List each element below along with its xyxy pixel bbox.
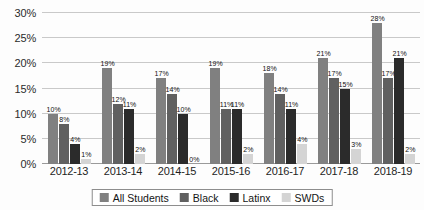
x-axis-tick-label: 2017-18 bbox=[312, 165, 366, 183]
bar[interactable] bbox=[297, 144, 307, 164]
bar[interactable] bbox=[329, 78, 339, 164]
y-axis-tick-label: 5% bbox=[21, 133, 37, 145]
bar[interactable] bbox=[243, 154, 253, 164]
bar[interactable] bbox=[264, 73, 274, 164]
bar[interactable] bbox=[102, 68, 112, 164]
bar-chart: 0%5%10%15%20%25%30% 10%8%4%1%19%12%11%2%… bbox=[0, 0, 424, 210]
y-axis-tick-label: 10% bbox=[15, 108, 36, 120]
bar-column[interactable]: 0% bbox=[189, 8, 199, 164]
bar-group: 19%11%11%2% bbox=[204, 8, 258, 164]
bar-value-label: 0% bbox=[189, 156, 199, 163]
bar[interactable] bbox=[340, 89, 350, 164]
legend-item[interactable]: Latinx bbox=[229, 192, 270, 204]
bar-value-label: 4% bbox=[70, 136, 80, 143]
bar-value-label: 1% bbox=[81, 151, 91, 158]
bar[interactable] bbox=[286, 109, 296, 164]
bar-column[interactable]: 2% bbox=[243, 8, 253, 164]
bar-column[interactable]: 2% bbox=[135, 8, 145, 164]
bar-column[interactable]: 4% bbox=[70, 8, 80, 164]
legend-swatch-icon bbox=[282, 193, 291, 202]
bar-column[interactable]: 2% bbox=[405, 8, 415, 164]
chart-legend: All StudentsBlackLatinxSWDs bbox=[92, 189, 333, 206]
bar[interactable] bbox=[221, 109, 231, 164]
bar[interactable] bbox=[81, 159, 91, 164]
bar[interactable] bbox=[48, 114, 58, 164]
y-axis-tick-label: 30% bbox=[15, 7, 36, 19]
bar-column[interactable]: 28% bbox=[372, 8, 382, 164]
bar[interactable] bbox=[167, 94, 177, 164]
bar-value-label: 4% bbox=[297, 136, 307, 143]
bar-group: 18%14%11%4% bbox=[258, 8, 312, 164]
x-axis-tick-label: 2014-15 bbox=[150, 165, 204, 183]
bar[interactable] bbox=[124, 109, 134, 164]
bar-column[interactable]: 17% bbox=[329, 8, 339, 164]
legend-item[interactable]: SWDs bbox=[282, 192, 325, 204]
bar-value-label: 2% bbox=[243, 146, 253, 153]
bar-group: 28%17%21%2% bbox=[366, 8, 420, 164]
bar-column[interactable]: 11% bbox=[232, 8, 242, 164]
y-axis: 0%5%10%15%20%25%30% bbox=[0, 8, 42, 164]
bar[interactable] bbox=[318, 58, 328, 164]
bar[interactable] bbox=[351, 149, 361, 164]
bar-column[interactable]: 14% bbox=[275, 8, 285, 164]
bar-group: 19%12%11%2% bbox=[96, 8, 150, 164]
bar[interactable] bbox=[275, 94, 285, 164]
x-axis-tick-label: 2018-19 bbox=[366, 165, 420, 183]
plot-area: 10%8%4%1%19%12%11%2%17%14%10%0%19%11%11%… bbox=[42, 8, 420, 164]
bar-column[interactable]: 1% bbox=[81, 8, 91, 164]
bar-column[interactable]: 10% bbox=[48, 8, 58, 164]
x-axis-tick-label: 2015-16 bbox=[204, 165, 258, 183]
legend-item[interactable]: All Students bbox=[100, 192, 169, 204]
bar-column[interactable]: 21% bbox=[394, 8, 404, 164]
bar-column[interactable]: 15% bbox=[340, 8, 350, 164]
y-axis-tick-label: 0% bbox=[21, 158, 37, 170]
bar[interactable] bbox=[135, 154, 145, 164]
bar-column[interactable]: 17% bbox=[383, 8, 393, 164]
bar-value-label: 2% bbox=[405, 146, 415, 153]
bar-groups: 10%8%4%1%19%12%11%2%17%14%10%0%19%11%11%… bbox=[42, 8, 420, 164]
bar[interactable] bbox=[156, 78, 166, 164]
bar-group: 17%14%10%0% bbox=[150, 8, 204, 164]
bar-column[interactable]: 14% bbox=[167, 8, 177, 164]
legend-item[interactable]: Black bbox=[180, 192, 219, 204]
bar[interactable] bbox=[59, 124, 69, 164]
bar-value-label: 8% bbox=[59, 116, 69, 123]
bar-column[interactable]: 10% bbox=[178, 8, 188, 164]
bar-column[interactable]: 3% bbox=[351, 8, 361, 164]
legend-label: SWDs bbox=[295, 192, 325, 204]
y-axis-tick-label: 15% bbox=[15, 83, 36, 95]
bar-column[interactable]: 11% bbox=[124, 8, 134, 164]
bar-column[interactable]: 18% bbox=[264, 8, 274, 164]
bar-column[interactable]: 17% bbox=[156, 8, 166, 164]
bar[interactable] bbox=[178, 114, 188, 164]
legend-label: All Students bbox=[113, 192, 169, 204]
x-axis-tick-label: 2012-13 bbox=[42, 165, 96, 183]
bar[interactable] bbox=[394, 58, 404, 164]
bar-value-label: 3% bbox=[351, 141, 361, 148]
bar[interactable] bbox=[113, 104, 123, 164]
bar-column[interactable]: 11% bbox=[286, 8, 296, 164]
bar-column[interactable]: 12% bbox=[113, 8, 123, 164]
bar-column[interactable]: 8% bbox=[59, 8, 69, 164]
bar-column[interactable]: 19% bbox=[210, 8, 220, 164]
bar-group: 21%17%15%3% bbox=[312, 8, 366, 164]
bar-group: 10%8%4%1% bbox=[42, 8, 96, 164]
y-axis-tick-label: 20% bbox=[15, 57, 36, 69]
legend-label: Latinx bbox=[242, 192, 270, 204]
bar-column[interactable]: 11% bbox=[221, 8, 231, 164]
bar[interactable] bbox=[405, 154, 415, 164]
y-axis-tick-label: 25% bbox=[15, 32, 36, 44]
x-axis-tick-label: 2013-14 bbox=[96, 165, 150, 183]
bar-column[interactable]: 19% bbox=[102, 8, 112, 164]
bar[interactable] bbox=[372, 23, 382, 164]
x-axis-tick-label: 2016-17 bbox=[258, 165, 312, 183]
bar-value-label: 2% bbox=[135, 146, 145, 153]
legend-label: Black bbox=[193, 192, 219, 204]
bar[interactable] bbox=[210, 68, 220, 164]
bar[interactable] bbox=[232, 109, 242, 164]
bar-column[interactable]: 4% bbox=[297, 8, 307, 164]
bar[interactable] bbox=[383, 78, 393, 164]
bar[interactable] bbox=[70, 144, 80, 164]
bar-column[interactable]: 21% bbox=[318, 8, 328, 164]
legend-swatch-icon bbox=[100, 193, 109, 202]
